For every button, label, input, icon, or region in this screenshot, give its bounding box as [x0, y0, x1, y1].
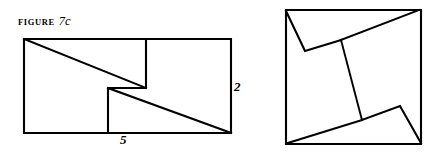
figure-drawing — [0, 0, 440, 154]
figure-page: Figure7c 2 5 — [0, 0, 440, 154]
left-stepped-rectangle — [24, 39, 231, 133]
dimension-label-width: 5 — [120, 133, 127, 146]
right-dissected-square — [286, 10, 421, 144]
dimension-label-height: 2 — [234, 80, 241, 93]
left-rectangle-outline — [24, 39, 231, 133]
right-square-outline — [286, 10, 421, 144]
